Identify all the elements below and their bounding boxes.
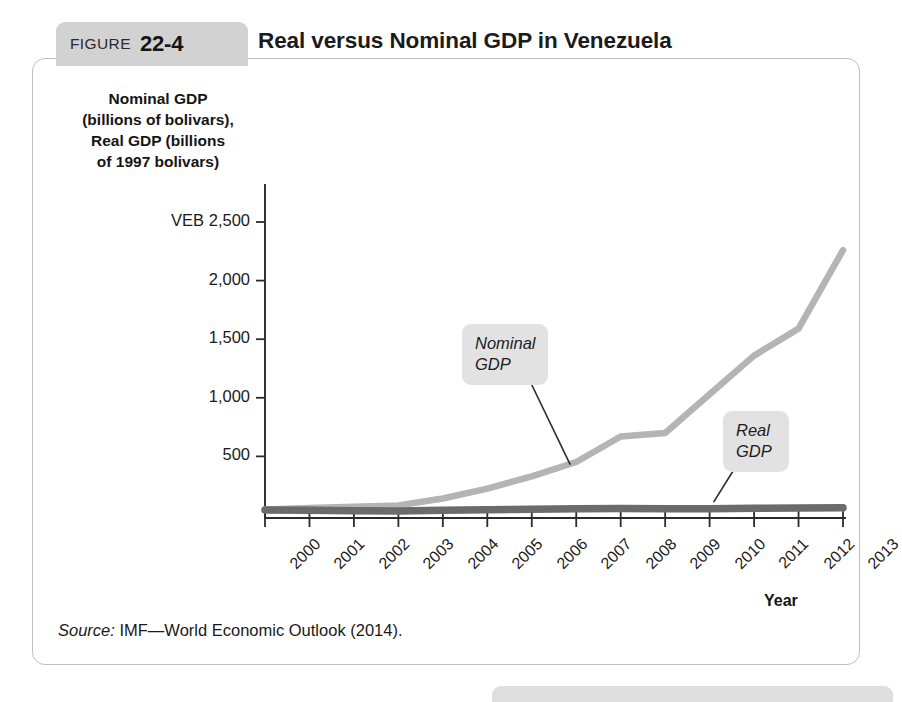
callout-real-line-1: Real — [736, 420, 776, 441]
source-label: Source: — [58, 621, 115, 639]
y-tick-label-1500: 1,500 — [209, 328, 250, 347]
y-tick-label-2500: VEB 2,500 — [171, 211, 250, 230]
figure-tab-content: FIGURE 22-4 — [56, 22, 248, 66]
y-tick-label-500: 500 — [222, 445, 250, 464]
y-tick-label-1000: 1,000 — [209, 387, 250, 406]
x-axis-title: Year — [764, 592, 798, 610]
source-text: IMF—World Economic Outlook (2014). — [115, 621, 403, 639]
callout-nominal-line-2: GDP — [475, 354, 535, 375]
figure-tab: FIGURE 22-4 — [56, 22, 248, 66]
callout-real-line-2: GDP — [736, 441, 776, 462]
figure-title: Real versus Nominal GDP in Venezuela — [258, 28, 672, 54]
callout-nominal-gdp: Nominal GDP — [462, 324, 548, 385]
y-tick-label-2000: 2,000 — [209, 270, 250, 289]
x-tick-label-2013: 2013 — [864, 535, 902, 573]
y-axis-tick-labels: 5001,0001,5002,000VEB 2,500 — [110, 0, 250, 702]
bottom-banner — [492, 686, 893, 702]
figure-label: FIGURE — [70, 35, 131, 53]
callout-real-gdp: Real GDP — [723, 411, 789, 472]
figure-number: 22-4 — [140, 31, 183, 57]
callout-nominal-line-1: Nominal — [475, 333, 535, 354]
source-line: Source: IMF—World Economic Outlook (2014… — [58, 621, 403, 640]
